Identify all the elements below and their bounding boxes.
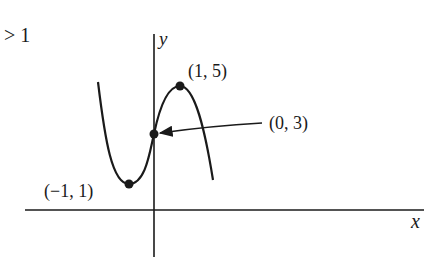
y-axis-label: y — [157, 28, 168, 49]
annotation-arrow — [160, 123, 262, 133]
point-local-min — [125, 180, 134, 189]
graph-figure: > 1 y x (1, 5) (0, 3) (−1, 1) — [0, 0, 447, 262]
graph-canvas: > 1 y x (1, 5) (0, 3) (−1, 1) — [0, 0, 447, 262]
point-local-max — [176, 82, 185, 91]
point-y-intercept — [150, 130, 159, 139]
header-fragment: > 1 — [4, 24, 30, 46]
label-local-max: (1, 5) — [188, 61, 227, 82]
x-axis-label: x — [410, 210, 420, 232]
label-y-intercept: (0, 3) — [269, 113, 308, 134]
label-local-min: (−1, 1) — [44, 181, 93, 202]
